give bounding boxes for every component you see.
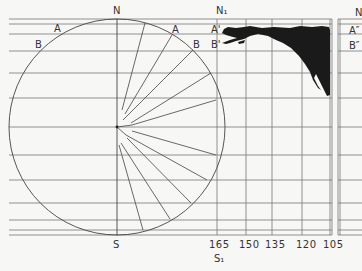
latitude-lines: [9, 19, 332, 235]
landmass-fragment: [238, 40, 245, 44]
next-panel-a-label: A″: [349, 26, 360, 36]
globe-center: [116, 126, 119, 129]
longitude-tick-135: 135: [265, 240, 286, 250]
projection-diagram: [0, 0, 362, 271]
globe-right-b-label: B: [193, 40, 200, 50]
landmass-shape: [222, 26, 330, 96]
longitude-tick-165: 165: [209, 240, 230, 250]
next-panel-lines: [338, 19, 362, 235]
grid-south-label: S₁: [214, 254, 224, 264]
globe-south-label: S: [113, 240, 119, 250]
next-panel-b-label: B″: [349, 41, 360, 51]
longitude-tick-120: 120: [296, 240, 317, 250]
next-panel-north-label: N: [355, 8, 362, 18]
globe-left-b-label: B: [35, 40, 42, 50]
globe-north-label: N: [113, 6, 120, 16]
longitude-tick-105: 105: [323, 240, 344, 250]
longitude-tick-150: 150: [239, 240, 260, 250]
globe-right-a-label: A: [172, 25, 179, 35]
grid-north-label: N₁: [216, 6, 228, 16]
grid-b-label: B': [211, 40, 221, 50]
meridian-rays: [117, 23, 216, 230]
grid-a-label: A': [211, 25, 221, 35]
globe-left-a-label: A: [54, 24, 61, 34]
